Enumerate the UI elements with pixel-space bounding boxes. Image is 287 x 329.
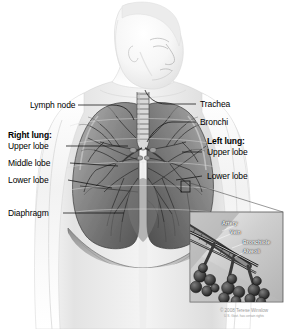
label-upper-lobe-left: Upper lobe (207, 148, 248, 157)
label-diaphragm: Diaphragm (8, 209, 49, 218)
label-lymph-node: Lymph node (30, 101, 75, 110)
label-middle-lobe: Middle lobe (8, 159, 50, 168)
label-lower-lobe-left: Lower lobe (207, 172, 248, 181)
label-left-lung: Left lung: (207, 137, 245, 146)
copyright-credit: © 2008 Terese Winslow U.S. Govt. has cer… (206, 308, 282, 318)
lung-anatomy-figure: Lymph node Right lung: Upper lobe Middle… (0, 0, 287, 329)
alveoli-detail-inset-art (186, 212, 283, 307)
label-lower-lobe-right: Lower lobe (8, 176, 49, 185)
label-upper-lobe-right: Upper lobe (8, 142, 49, 151)
inset-label-vein: Vein (230, 230, 241, 235)
right-lung (73, 103, 139, 249)
credit-line-2: U.S. Govt. has certain rights (206, 314, 282, 318)
inset-label-alveoli: Alveoli (243, 249, 260, 254)
inset-label-artery: Artery (222, 221, 237, 226)
label-right-lung: Right lung: (8, 131, 52, 140)
label-bronchi: Bronchi (200, 118, 228, 127)
inset-label-bronchiole: Bronchiole (243, 240, 270, 245)
label-trachea: Trachea (200, 100, 230, 109)
